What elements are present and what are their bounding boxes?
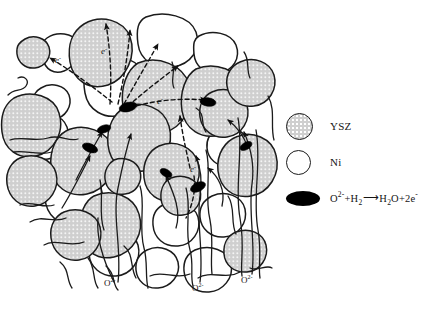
eq-product-electron-charge: - [415, 190, 418, 199]
ysz-grain [17, 37, 50, 68]
pore-boundary [268, 96, 274, 140]
figure-root: e- e- e- e- O2- O2- O2- [0, 0, 447, 311]
legend-item-ni: Ni [286, 144, 446, 180]
legend-swatch-ysz [286, 113, 330, 140]
eq-product-water-h: H [379, 192, 387, 203]
ni-particle-circle-icon [286, 150, 311, 175]
tpb-reaction-site-ellipse-icon [286, 191, 320, 206]
eq-arrow-icon: ⟶ [362, 191, 379, 203]
legend-swatch-ni [286, 150, 330, 175]
oxygen-ion-label: O2- [241, 274, 253, 285]
legend-item-ysz: YSZ [286, 108, 446, 144]
legend: YSZ Ni O2-+H2⟶H2O+2e- [286, 108, 446, 216]
pore-boundary [60, 262, 72, 288]
legend-label-ysz: YSZ [330, 120, 351, 132]
pore-boundary [8, 77, 27, 95]
ysz-grain [7, 156, 57, 206]
ysz-grain [227, 60, 275, 107]
eq-product-plus: +2 [399, 192, 411, 203]
oxygen-ion-label: O2- [104, 277, 116, 288]
ni-grain [137, 14, 197, 67]
legend-label-ni: Ni [330, 156, 341, 168]
ysz-grain [161, 176, 201, 215]
legend-label-reaction-equation: O2-+H2⟶H2O+2e- [330, 190, 418, 207]
ysz-grain [51, 210, 101, 260]
legend-item-tpb: O2-+H2⟶H2O+2e- [286, 180, 446, 216]
legend-swatch-tpb [286, 191, 330, 206]
ysz-particle-circle-icon [286, 113, 313, 140]
ysz-grain [2, 94, 61, 157]
eq-reactant-ion: O [330, 192, 338, 203]
ni-grain [136, 248, 179, 288]
eq-product-water-o: O [391, 192, 399, 203]
